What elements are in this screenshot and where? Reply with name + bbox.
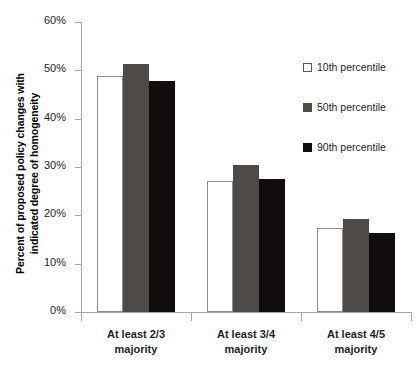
y-tick-30: 30% (75, 167, 81, 168)
x-category-label-1: At least 3/4 majority (191, 327, 301, 357)
y-tick-label-30: 30% (44, 159, 66, 171)
bar-chart: Percent of proposed policy changes with … (0, 0, 417, 371)
bar-1-p50 (123, 64, 149, 312)
y-tick-label-60: 60% (44, 14, 66, 26)
x-category-label-1-line-1: At least 3/4 (191, 327, 301, 342)
x-category-label-0-line-2: majority (81, 342, 191, 357)
x-category-label-2-line-2: majority (301, 342, 411, 357)
legend-label-50th-percentile: 50th percentile (317, 101, 386, 113)
y-tick-label-50: 50% (44, 62, 66, 74)
legend: 10th percentile 50th percentile 90th per… (303, 60, 415, 180)
y-axis-title: Percent of proposed policy changes with … (14, 19, 41, 329)
y-tick-50: 50% (75, 70, 81, 71)
y-tick-label-20: 20% (44, 207, 66, 219)
y-axis-title-line-2: indicated degree of homogeneity (27, 19, 41, 329)
legend-label-10th-percentile: 10th percentile (317, 61, 386, 73)
y-axis-title-line-1: Percent of proposed policy changes with (14, 19, 28, 329)
y-axis-line (81, 22, 82, 313)
x-tick-boundary-3 (411, 312, 412, 321)
legend-swatch-icon-90th-percentile (303, 143, 312, 152)
legend-swatch-icon-10th-percentile (303, 63, 312, 72)
x-category-label-1-line-2: majority (191, 342, 301, 357)
y-tick-label-0: 0% (50, 304, 66, 316)
bar-2-p10 (207, 181, 233, 312)
bar-2-p50 (233, 165, 259, 312)
x-axis-line (81, 312, 412, 313)
x-category-label-2-line-1: At least 4/5 (301, 327, 411, 342)
legend-item-50th-percentile: 50th percentile (303, 100, 415, 114)
y-tick-20: 20% (75, 215, 81, 216)
y-tick-label-40: 40% (44, 111, 66, 123)
y-tick-60: 60% (75, 22, 81, 23)
bar-1-p90 (149, 81, 175, 312)
legend-label-90th-percentile: 90th percentile (317, 141, 386, 153)
bar-3-p50 (343, 219, 369, 312)
x-tick-boundary-2 (301, 312, 302, 321)
x-category-label-0-line-1: At least 2/3 (81, 327, 191, 342)
y-tick-label-10: 10% (44, 256, 66, 268)
legend-item-90th-percentile: 90th percentile (303, 140, 415, 154)
x-tick-boundary-0 (81, 312, 82, 321)
bar-1-p10 (97, 76, 123, 312)
bar-3-p10 (317, 228, 343, 312)
x-category-label-2: At least 4/5 majority (301, 327, 411, 357)
bar-3-p90 (369, 233, 395, 312)
y-tick-10: 10% (75, 264, 81, 265)
x-category-label-0: At least 2/3 majority (81, 327, 191, 357)
x-tick-boundary-1 (191, 312, 192, 321)
bar-2-p90 (259, 179, 285, 312)
y-tick-40: 40% (75, 119, 81, 120)
legend-item-10th-percentile: 10th percentile (303, 60, 415, 74)
legend-swatch-icon-50th-percentile (303, 103, 312, 112)
